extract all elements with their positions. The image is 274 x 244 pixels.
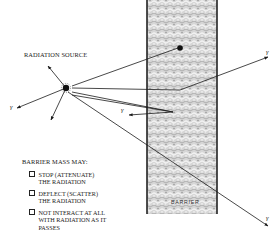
ray-up-left [48,66,66,88]
barrier-effect-pass: NOT INTERACT AT ALL WITH RADIATION AS IT… [29,209,106,231]
bullet-box-icon [29,209,35,215]
absorption-point [177,45,183,51]
radiation-source-label: RADIATION SOURCE [24,51,87,58]
gamma-label-scatter: γ [121,106,124,113]
radiation-barrier-diagram [0,0,274,244]
radiation-source [61,83,70,92]
ray-left [17,88,66,108]
gamma-label-upper-right: γ [266,48,269,55]
barrier [147,0,217,214]
gamma-label-left: γ [10,103,13,110]
barrier-heading: BARRIER MASS MAY: [22,158,88,165]
gamma-label-lower-right: γ [266,214,269,221]
barrier-label: BARRIER [171,199,200,205]
bullet-box-icon [29,171,35,177]
bullet-box-icon [29,190,35,196]
barrier-effect-deflect: DEFLECT (SCATTER) THE RADIATION [29,190,98,205]
barrier-effect-stop: STOP (ATTENUATE) THE RADIATION [29,171,94,186]
